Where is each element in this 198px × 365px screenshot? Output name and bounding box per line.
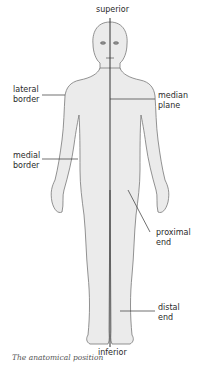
label-distal-end: distal end (158, 303, 180, 322)
figure-caption: The anatomical position (12, 353, 103, 362)
label-proximal-end: proximal end (156, 228, 191, 247)
label-superior: superior (96, 5, 129, 15)
label-medial-border: medial border (13, 151, 40, 170)
label-lateral-border: lateral border (13, 85, 39, 104)
label-median-plane: median plane (158, 91, 188, 110)
